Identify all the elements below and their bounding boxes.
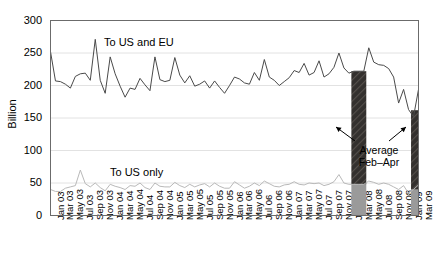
chart-container: Billion 050100150200250300 Jan 03Mar 03M… [0, 0, 440, 273]
annotation-line-1: Average [347, 144, 411, 156]
bar-lower-segment [351, 184, 366, 215]
annotation-arrows [336, 127, 406, 141]
series-label-to-us-only: To US only [110, 166, 163, 178]
arrow-head-0 [336, 127, 342, 132]
plot-area [0, 0, 440, 273]
series-label-to-us-and-eu: To US and EU [104, 36, 174, 48]
bar-upper-segment [411, 110, 418, 189]
bar-lower-segment [411, 190, 418, 216]
annotation-line-2: Feb–Apr [347, 156, 411, 168]
annotation-average-feb-apr: Average Feb–Apr [347, 144, 411, 168]
